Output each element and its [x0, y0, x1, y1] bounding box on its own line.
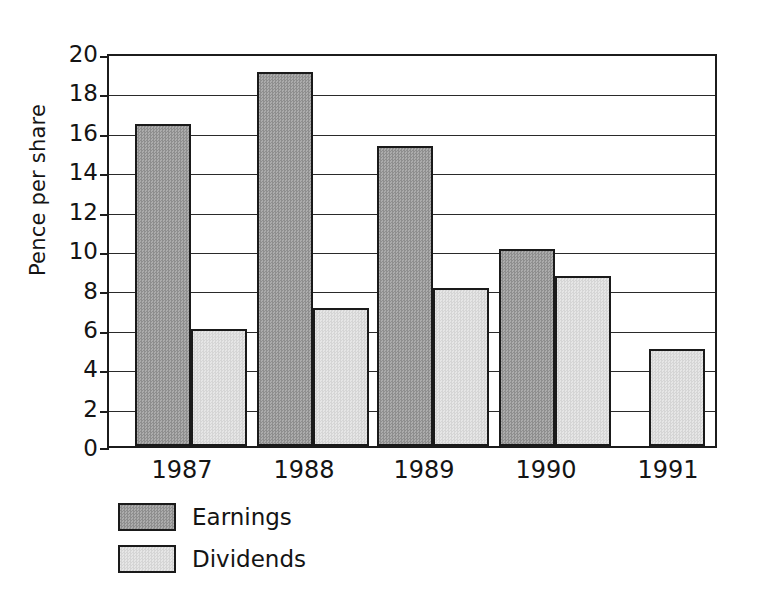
legend-item-dividends[interactable]: Dividends: [118, 542, 306, 576]
y-tick-label-14: 14: [52, 161, 98, 184]
y-tick-label-0: 0: [52, 437, 98, 460]
tick-mark-6: [100, 332, 109, 334]
bar-dividends-1988[interactable]: [313, 308, 369, 446]
bar-earnings-1987[interactable]: [135, 124, 191, 446]
tick-mark-10: [100, 253, 109, 255]
x-tick-label-1990: 1990: [486, 456, 606, 484]
bar-earnings-1988[interactable]: [257, 72, 313, 446]
tick-mark-8: [100, 292, 109, 294]
tick-mark-14: [100, 174, 109, 176]
legend-swatch-dividends-icon: [118, 545, 176, 573]
x-tick-label-1988: 1988: [244, 456, 364, 484]
y-tick-label-18: 18: [52, 82, 98, 105]
tick-mark-12: [100, 214, 109, 216]
x-tick-label-1991: 1991: [608, 456, 728, 484]
bar-earnings-1989[interactable]: [377, 146, 433, 446]
tick-mark-18: [100, 95, 109, 97]
x-tick-label-1989: 1989: [364, 456, 484, 484]
gridline-18: [109, 95, 715, 96]
y-tick-label-6: 6: [52, 319, 98, 342]
legend-label-dividends: Dividends: [192, 548, 306, 571]
gridline-16: [109, 135, 715, 136]
tick-mark-2: [100, 411, 109, 413]
y-tick-label-12: 12: [52, 201, 98, 224]
x-tick-label-1987: 1987: [122, 456, 242, 484]
bar-dividends-1989[interactable]: [433, 288, 489, 446]
y-tick-label-2: 2: [52, 398, 98, 421]
bar-dividends-1990[interactable]: [555, 276, 611, 446]
bar-earnings-1990[interactable]: [499, 249, 555, 446]
bar-dividends-1991[interactable]: [649, 349, 705, 447]
y-tick-label-16: 16: [52, 122, 98, 145]
bar-chart-figure: Pence per share 20 18 16 14 12 10 8 6 4 …: [0, 0, 757, 611]
legend-swatch-earnings-icon: [118, 503, 176, 531]
plot-area: [107, 54, 717, 448]
y-tick-label-10: 10: [52, 240, 98, 263]
tick-mark-0: [100, 448, 109, 450]
y-tick-label-8: 8: [52, 280, 98, 303]
y-tick-label-4: 4: [52, 358, 98, 381]
tick-mark-4: [100, 371, 109, 373]
chart-legend: Earnings Dividends: [118, 500, 306, 584]
legend-label-earnings: Earnings: [192, 506, 292, 529]
y-tick-label-20: 20: [52, 43, 98, 66]
tick-mark-20: [100, 56, 109, 58]
y-axis-title: Pence per share: [26, 80, 50, 300]
legend-item-earnings[interactable]: Earnings: [118, 500, 306, 534]
tick-mark-16: [100, 135, 109, 137]
bar-dividends-1987[interactable]: [191, 329, 247, 446]
